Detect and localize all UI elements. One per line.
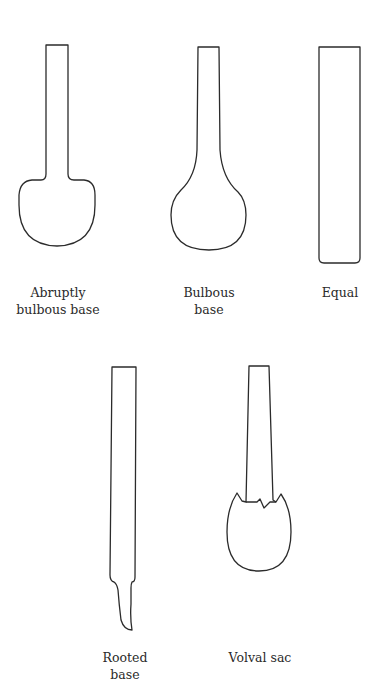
bulbous-base-shape	[171, 47, 246, 250]
volval-sac-shape	[227, 366, 291, 571]
stem-base-diagram	[0, 0, 380, 700]
label-line: Equal	[322, 284, 359, 301]
label-line: Bulbous	[183, 284, 234, 301]
equal-shape	[319, 47, 360, 263]
rooted-base-shape	[110, 367, 136, 630]
label-bulbous-base: Bulbous base	[183, 284, 234, 318]
label-equal: Equal	[322, 284, 359, 301]
label-line: Volval sac	[229, 649, 292, 666]
label-abruptly-bulbous-base: Abruptly bulbous base	[16, 284, 99, 318]
label-line: Rooted	[103, 649, 148, 666]
label-line: bulbous base	[16, 301, 99, 318]
label-line: base	[103, 666, 148, 683]
label-volval-sac: Volval sac	[229, 649, 292, 666]
label-line: base	[183, 301, 234, 318]
abruptly-bulbous-base-shape	[19, 45, 95, 246]
label-line: Abruptly	[16, 284, 99, 301]
label-rooted-base: Rooted base	[103, 649, 148, 683]
